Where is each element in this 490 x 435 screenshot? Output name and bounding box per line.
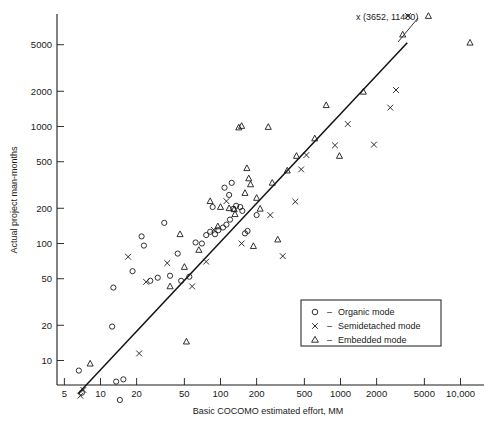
data-point-circle (121, 377, 126, 382)
legend-label-organic: Organic mode (338, 307, 395, 317)
data-point-x (267, 212, 273, 218)
y-tick-label: 100 (36, 238, 52, 249)
data-point-triangle (167, 283, 173, 289)
data-point-triangle (425, 13, 431, 19)
data-point-x (280, 253, 286, 259)
x-tick-label: 5000 (414, 388, 435, 399)
x-tick-label: 10,000 (446, 388, 475, 399)
data-point-triangle (250, 243, 256, 249)
data-point-x (298, 166, 304, 172)
data-point-circle (220, 225, 225, 230)
data-point-x (164, 260, 170, 266)
data-point-triangle (257, 205, 263, 211)
data-point-circle (224, 222, 229, 227)
data-point-triangle (254, 195, 260, 201)
data-point-x (239, 241, 245, 247)
data-point-circle (114, 379, 119, 384)
data-point-x (136, 350, 142, 356)
data-point-circle (167, 273, 172, 278)
legend-dash-embedded: – (327, 335, 332, 345)
legend-x-icon (312, 323, 318, 329)
data-point-triangle (236, 124, 242, 130)
data-point-circle (117, 397, 122, 402)
data-point-circle (227, 192, 232, 197)
data-point-x (387, 105, 393, 111)
data-point-circle (155, 275, 160, 280)
data-point-x (345, 121, 351, 127)
legend-entry-embedded: – Embedded mode (312, 335, 407, 345)
data-point-circle (76, 368, 81, 373)
series-organic-mode (76, 180, 259, 402)
y-tick-label: 5000 (31, 39, 52, 50)
data-point-circle (162, 220, 167, 225)
data-point-triangle (323, 102, 329, 108)
data-point-x (125, 254, 131, 260)
y-tick-label: 500 (36, 156, 52, 167)
data-point-circle (141, 243, 146, 248)
data-point-circle (199, 241, 204, 246)
chart-figure: 102050100200500100020005000 510205010020… (0, 0, 490, 435)
data-point-x (189, 283, 195, 289)
data-point-triangle (265, 124, 271, 130)
data-point-x (371, 142, 377, 148)
data-point-circle (110, 324, 115, 329)
data-point-circle (175, 251, 180, 256)
data-point-circle (111, 285, 116, 290)
data-point-circle (210, 204, 215, 209)
data-point-triangle (177, 231, 183, 237)
data-point-triangle (467, 39, 473, 45)
data-point-x (304, 152, 310, 158)
data-point-triangle (87, 360, 93, 366)
x-tick-label: 2000 (366, 388, 387, 399)
x-tick-label: 500 (296, 388, 312, 399)
data-point-x (292, 199, 298, 205)
data-point-x (203, 259, 209, 265)
data-point-circle (254, 212, 259, 217)
data-point-triangle (196, 247, 202, 253)
data-point-x (393, 87, 399, 93)
legend-circle-icon (312, 309, 318, 315)
x-tick-label: 200 (249, 388, 265, 399)
x-tick-label: 20 (131, 388, 142, 399)
x-tick-label: 1000 (330, 388, 351, 399)
y-tick-label: 10 (41, 355, 52, 366)
data-point-x (224, 198, 230, 204)
legend-triangle-icon (312, 336, 319, 342)
data-point-triangle (207, 198, 213, 204)
y-axis-ticks: 102050100200500100020005000 (31, 39, 64, 366)
data-point-circle (222, 185, 227, 190)
x-tick-label: 10 (95, 388, 106, 399)
data-point-triangle (248, 181, 254, 187)
legend-dash-organic: – (327, 307, 332, 317)
y-tick-label: 1000 (31, 121, 52, 132)
data-point-triangle (244, 165, 250, 171)
y-tick-label: 200 (36, 203, 52, 214)
legend-label-embedded: Embedded mode (338, 335, 407, 345)
data-point-circle (193, 240, 198, 245)
legend: – Organic mode – Semidetached mode – Emb… (301, 300, 441, 346)
legend-entry-organic: – Organic mode (312, 307, 394, 317)
data-point-circle (139, 234, 144, 239)
data-point-x (332, 142, 338, 148)
data-point-triangle (246, 175, 252, 181)
x-tick-label: 5 (62, 388, 67, 399)
data-point-triangle (336, 153, 342, 159)
data-point-triangle (293, 153, 299, 159)
y-tick-label: 20 (41, 320, 52, 331)
legend-dash-semidetached: – (327, 321, 332, 331)
data-point-triangle (217, 204, 223, 210)
data-point-circle (227, 217, 232, 222)
scatter-plot-svg: 102050100200500100020005000 510205010020… (0, 0, 490, 435)
data-point-triangle (181, 264, 187, 270)
y-tick-label: 50 (41, 273, 52, 284)
series-embedded-mode (87, 13, 473, 366)
x-tick-label: 100 (213, 388, 229, 399)
annotation-group: x (3652, 11400) (356, 12, 418, 42)
data-point-circle (229, 180, 234, 185)
y-axis-title: Actual project man-months (9, 146, 19, 254)
data-point-triangle (275, 236, 281, 242)
annotation-label: x (3652, 11400) (356, 12, 418, 22)
data-point-triangle (269, 180, 275, 186)
legend-entry-semidetached: – Semidetached mode (312, 321, 420, 331)
x-tick-label: 50 (179, 388, 190, 399)
